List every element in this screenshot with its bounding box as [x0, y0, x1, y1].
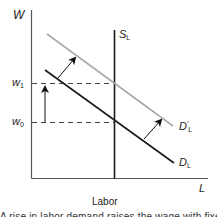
- demand-curve-dl-prime: [47, 34, 173, 126]
- supply-label: SL: [119, 29, 130, 41]
- demand-new-label: D′L: [179, 120, 192, 133]
- w1-sub: 1: [20, 82, 24, 89]
- demand-label: DL: [179, 157, 191, 169]
- w0-label: w0: [12, 116, 24, 128]
- supply-sub: L: [126, 34, 130, 41]
- shift-arrow-upper: [58, 58, 75, 78]
- w0-sub: 0: [20, 121, 24, 128]
- y-axis-label: W: [13, 9, 24, 21]
- demand-main: D: [179, 156, 187, 168]
- shift-arrow-lower: [144, 120, 161, 139]
- x-axis-label: L: [199, 183, 205, 194]
- w1-main: w: [12, 76, 20, 88]
- labor-market-diagram: [0, 0, 217, 217]
- demand-new-main: D: [179, 120, 187, 132]
- demand-new-sub: L: [188, 126, 192, 133]
- cut-off-caption-text: A rise in labor demand raises the wage w…: [0, 211, 217, 217]
- w1-label: w1: [12, 77, 24, 89]
- demand-sub: L: [187, 162, 191, 169]
- w0-main: w: [12, 115, 20, 127]
- demand-curve-dl: [45, 70, 174, 163]
- caption-labor: Labor: [92, 197, 118, 207]
